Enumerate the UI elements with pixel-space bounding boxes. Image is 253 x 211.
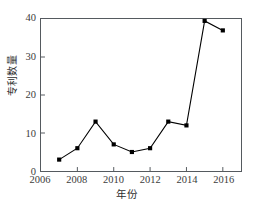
x-tick-label: 2014 [167, 174, 207, 185]
data-point-marker [203, 19, 207, 23]
x-tick-label: 2010 [93, 174, 133, 185]
y-axis-tick-labels: 010203040 [0, 18, 36, 172]
data-point-marker [93, 120, 97, 124]
y-tick-label: 10 [2, 128, 36, 139]
y-tick-label: 40 [2, 13, 36, 24]
data-point-marker [112, 142, 116, 146]
data-point-marker [75, 146, 79, 150]
data-point-marker [184, 123, 188, 127]
x-tick-label: 2012 [130, 174, 170, 185]
plot-svg [41, 19, 241, 171]
x-tick-label: 2016 [204, 174, 244, 185]
data-point-marker [130, 150, 134, 154]
x-tick-label: 2006 [20, 174, 60, 185]
x-axis-title: 年份 [0, 189, 253, 201]
y-tick-label: 30 [2, 51, 36, 62]
data-point-marker [166, 120, 170, 124]
x-tick-label: 2008 [57, 174, 97, 185]
plot-area [40, 18, 242, 172]
y-tick-label: 20 [2, 90, 36, 101]
x-axis-tick-labels: 200620082010201220142016 [40, 174, 242, 188]
y-tick-marks [41, 57, 45, 133]
data-point-marker [148, 146, 152, 150]
data-point-marker [57, 158, 61, 162]
x-tick-marks [77, 167, 222, 171]
data-point-marker [221, 28, 225, 32]
patent-count-line-chart: 专利数量 010203040 200620082010201220142016 … [0, 0, 253, 211]
data-series-line [59, 21, 223, 160]
